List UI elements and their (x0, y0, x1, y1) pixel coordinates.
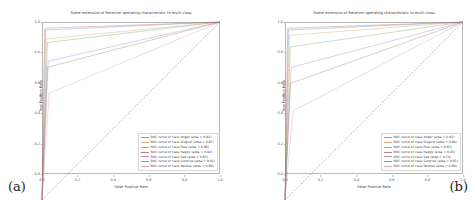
legend-swatch (141, 137, 149, 138)
legend-item: ROC curve of class Surprise (area = 0.91… (384, 159, 458, 163)
legend-swatch (384, 161, 392, 162)
legend-swatch (141, 161, 149, 162)
y-tick: 0.6 (30, 81, 40, 85)
legend-swatch (384, 142, 392, 143)
legend-label: ROC curve of class Disgust (area = 0.90) (393, 140, 456, 144)
legend-label: ROC curve of class Surprise (area = 0.91… (150, 159, 215, 163)
legend-item: ROC curve of class Happy (area = 0.95) (384, 150, 458, 154)
axes-b: Some extension of Receiver operating cha… (285, 22, 463, 174)
legend-item: ROC curve of class Anger (area = 0.91) (141, 135, 215, 139)
panel-label-a: (a) (8, 179, 26, 194)
legend-swatch (384, 137, 392, 138)
legend-item: ROC curve of class Anger (area = 0.92) (384, 135, 458, 139)
legend-label: ROC curve of class Neutral (area = 0.80) (393, 164, 456, 168)
y-tick: 0.4 (273, 111, 283, 115)
y-tick: 0.8 (273, 50, 283, 54)
legend-item: ROC curve of class Fear (area = 0.83) (384, 145, 458, 149)
panel-b: Some extension of Receiver operating cha… (237, 0, 474, 200)
legend-item: ROC curve of class Neutral (area = 0.80) (141, 164, 215, 168)
legend-label: ROC curve of class Happy (area = 0.95) (393, 150, 455, 154)
axes-a: Some extension of Receiver operating cha… (42, 22, 220, 174)
y-tick: 0.0 (30, 172, 40, 176)
legend-item: ROC curve of class Sad (area = 0.74) (384, 155, 458, 159)
legend-label: ROC curve of class Sad (area = 0.83) (150, 155, 208, 159)
legend-swatch (141, 152, 149, 153)
curves-a (42, 22, 220, 200)
legend-item: ROC curve of class Disgust (area = 0.90) (384, 140, 458, 144)
legend-label: ROC curve of class Anger (area = 0.92) (393, 135, 454, 139)
legend-swatch (141, 156, 149, 157)
legend-label: ROC curve of class Happy (area = 0.94) (150, 150, 212, 154)
legend-swatch (141, 142, 149, 143)
panel-label-b: (b) (450, 179, 468, 194)
curves-b (285, 22, 463, 200)
legend-item: ROC curve of class Surprise (area = 0.91… (141, 159, 215, 163)
legend-swatch (141, 147, 149, 148)
plot-title-b: Some extension of Receiver operating cha… (285, 11, 463, 15)
legend-swatch (384, 166, 392, 167)
legend-label: ROC curve of class Anger (area = 0.91) (150, 135, 211, 139)
roc-figure: Some extension of Receiver operating cha… (0, 0, 475, 200)
legend-item: ROC curve of class Sad (area = 0.83) (141, 155, 215, 159)
legend-label: ROC curve of class Neutral (area = 0.80) (150, 164, 213, 168)
legend-swatch (141, 166, 149, 167)
legend-b: ROC curve of class Anger (area = 0.92)RO… (381, 133, 461, 171)
legend-a: ROC curve of class Anger (area = 0.91)RO… (138, 133, 218, 171)
legend-label: ROC curve of class Fear (area = 0.83) (393, 145, 451, 149)
legend-label: ROC curve of class Fear (area = 0.86) (150, 145, 208, 149)
y-tick: 0.8 (30, 50, 40, 54)
y-tick: 0.4 (30, 111, 40, 115)
y-tick: 1.0 (30, 20, 40, 24)
chance-line (42, 22, 220, 200)
legend-swatch (384, 147, 392, 148)
plot-title-a: Some extension of Receiver operating cha… (42, 11, 220, 15)
legend-item: ROC curve of class Disgust (area = 0.87) (141, 140, 215, 144)
y-tick: 0.2 (30, 142, 40, 146)
legend-label: ROC curve of class Surprise (area = 0.91… (393, 159, 458, 163)
legend-item: ROC curve of class Happy (area = 0.94) (141, 150, 215, 154)
legend-swatch (384, 156, 392, 157)
chance-line (285, 22, 463, 200)
legend-label: ROC curve of class Disgust (area = 0.87) (150, 140, 213, 144)
legend-swatch (384, 152, 392, 153)
panel-a: Some extension of Receiver operating cha… (0, 0, 237, 200)
y-tick: 0.0 (273, 172, 283, 176)
legend-label: ROC curve of class Sad (area = 0.74) (393, 155, 451, 159)
y-tick: 1.0 (273, 20, 283, 24)
y-tick: 0.2 (273, 142, 283, 146)
legend-item: ROC curve of class Neutral (area = 0.80) (384, 164, 458, 168)
legend-item: ROC curve of class Fear (area = 0.86) (141, 145, 215, 149)
y-tick: 0.6 (273, 81, 283, 85)
